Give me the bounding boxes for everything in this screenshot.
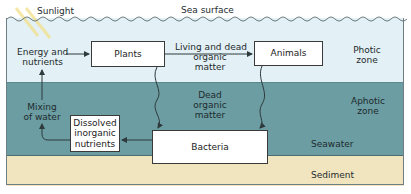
animals-box: Animals [254, 41, 323, 66]
living-dead-organic-label: Living and dead organic matter [175, 42, 245, 72]
aphotic-zone-label: Aphotic zone [348, 96, 388, 116]
mixing-water-label: Mixing of water [23, 102, 61, 122]
sea-surface-label: Sea surface [181, 5, 234, 15]
plants-box: Plants [91, 41, 165, 67]
sunlight-label: Sunlight [37, 6, 74, 16]
animals-label: Animals [271, 48, 307, 59]
plants-label: Plants [114, 49, 141, 60]
dissolved-nutrients-box: Dissolved inorganic nutrients [70, 115, 120, 152]
photic-zone-label: Photic zone [350, 45, 384, 65]
bacteria-box: Bacteria [152, 130, 268, 164]
bacteria-label: Bacteria [191, 142, 228, 153]
dead-organic-label: Dead organic matter [185, 90, 235, 120]
energy-nutrients-label: Energy and nutrients [17, 47, 68, 67]
sediment-label: Sediment [311, 170, 354, 180]
sea-surface-wave [7, 17, 407, 21]
seawater-label: Seawater [311, 139, 353, 149]
